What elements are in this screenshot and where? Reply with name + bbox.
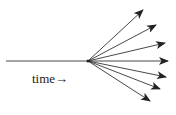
branch-arrow-1 (88, 10, 143, 61)
branch-arrow-2 (88, 25, 156, 61)
time-label: time→ (32, 71, 68, 87)
diagram-canvas (0, 0, 176, 115)
branch-point (87, 60, 90, 63)
branch-arrow-6 (88, 61, 160, 89)
branching-time-diagram: time→ (0, 0, 176, 115)
branch-arrow-3 (88, 43, 165, 61)
